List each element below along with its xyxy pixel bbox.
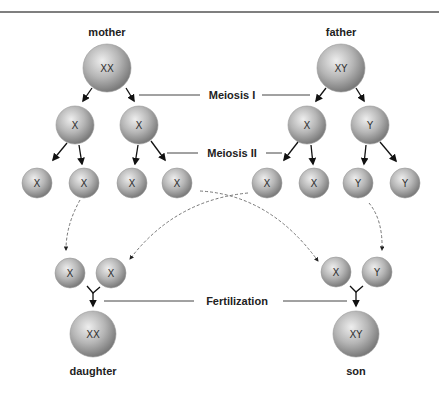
mother-gamete: X — [69, 168, 99, 198]
mother-gamete: X — [22, 168, 52, 198]
mother-meiosis1-cell: X — [56, 106, 94, 144]
svg-text:X: X — [81, 178, 88, 189]
svg-text:X: X — [311, 178, 318, 189]
father-meiosis1-cell: X — [288, 106, 326, 144]
daughter-label: daughter — [69, 365, 117, 377]
father-gamete: X — [252, 168, 282, 198]
svg-text:X: X — [34, 178, 41, 189]
svg-text:Y: Y — [354, 178, 362, 189]
svg-text:Y: Y — [366, 120, 374, 131]
father-cell: XY — [317, 44, 365, 92]
svg-text:XY: XY — [335, 63, 349, 74]
svg-text:X: X — [174, 178, 181, 189]
father-label: father — [326, 26, 357, 38]
svg-text:Y: Y — [401, 178, 409, 189]
svg-text:X: X — [108, 268, 115, 279]
son-gamete-pair: X Y — [321, 257, 392, 287]
daughter-gamete-pair: X X — [55, 258, 126, 288]
meiosis-fertilization-diagram: mother father XX XY Meiosis I X X X Y — [0, 0, 439, 398]
svg-text:X: X — [67, 268, 74, 279]
son-cell: XY — [333, 311, 379, 357]
father-meiosis1-cell: Y — [351, 106, 389, 144]
svg-text:XY: XY — [350, 329, 364, 340]
son-label: son — [346, 365, 366, 377]
svg-text:X: X — [129, 178, 136, 189]
father-gamete: X — [299, 168, 329, 198]
svg-text:X: X — [72, 120, 79, 131]
svg-text:Y: Y — [373, 267, 381, 278]
gamete-paths — [66, 191, 382, 261]
mother-gamete: X — [162, 168, 192, 198]
mother-gamete: X — [117, 168, 147, 198]
daughter-merge-arrow — [87, 286, 100, 306]
meiosis1-label: Meiosis I — [209, 89, 255, 101]
father-gamete: Y — [343, 168, 373, 198]
daughter-cell: XX — [70, 311, 116, 357]
svg-text:X: X — [304, 120, 311, 131]
mother-label: mother — [88, 26, 126, 38]
son-merge-arrow — [350, 286, 363, 306]
svg-text:XX: XX — [86, 329, 100, 340]
meiosis2-label: Meiosis II — [207, 147, 257, 159]
svg-text:X: X — [333, 267, 340, 278]
mother-meiosis1-cell: X — [120, 106, 158, 144]
svg-text:X: X — [264, 178, 271, 189]
svg-text:XX: XX — [100, 63, 114, 74]
svg-text:X: X — [136, 120, 143, 131]
mother-cell: XX — [83, 44, 131, 92]
father-gamete: Y — [390, 168, 420, 198]
fertilization-label: Fertilization — [206, 295, 268, 307]
